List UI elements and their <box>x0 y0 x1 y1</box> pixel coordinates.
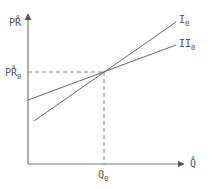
pr0-label: PR̊0 <box>5 65 21 81</box>
q0-label: Q0 <box>98 169 108 183</box>
y-axis-label: PR̊ <box>9 15 22 28</box>
diagram-canvas: PR̊ Q̊ PR̊0 Q0 I0 II0 <box>0 0 213 189</box>
line-ii0-label: II0 <box>179 38 195 52</box>
x-axis-label: Q̊ <box>190 156 196 169</box>
line-ii0 <box>28 45 176 100</box>
line-i0-label: I0 <box>179 14 189 28</box>
